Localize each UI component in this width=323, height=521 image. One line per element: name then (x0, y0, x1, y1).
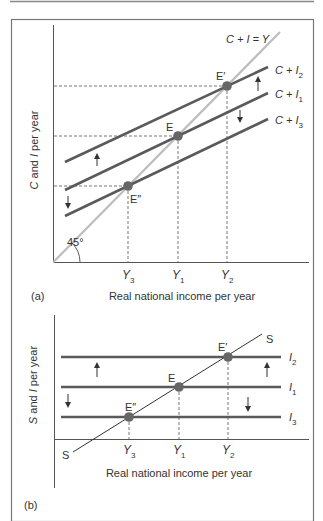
label-e: E (166, 121, 173, 133)
label-c-plus-i1: C + I1 (275, 88, 304, 104)
saving-function (73, 334, 262, 452)
label-b-e: E (168, 372, 175, 384)
label-c-plus-i2: C + I2 (275, 64, 304, 80)
panel-b: S S I2 I1 I3 E′ E E″ Y3 Y1 Y2 Real natio… (24, 315, 309, 511)
panel-a: 45° C + I = Y C + I2 C + I1 C + I3 E′ E (28, 25, 309, 302)
curve-c-plus-i3 (65, 119, 268, 216)
figure-frame (12, 20, 314, 521)
sub: 2 (299, 71, 304, 80)
sub: 3 (292, 418, 297, 427)
tick-y3: Y3 (122, 268, 135, 285)
sub: 3 (131, 451, 136, 460)
label-i3: I3 (289, 411, 297, 427)
angle-label: 45° (67, 236, 84, 248)
panel-b-y-label: S and I per year (27, 346, 39, 425)
sub: 1 (181, 451, 186, 460)
sub: 1 (299, 95, 304, 104)
label-e-double: E″ (130, 193, 141, 205)
point-e (173, 131, 183, 141)
label-i2: I2 (289, 351, 297, 367)
label-c-plus-i3: C + I3 (275, 114, 304, 130)
label-b-e-double: E″ (125, 401, 136, 413)
label-i1: I1 (289, 381, 297, 397)
forty-five-degree-line (54, 32, 281, 262)
sub: 2 (230, 451, 235, 460)
point-b-e-prime (223, 352, 233, 362)
panel-a-x-label: Real national income per year (109, 290, 255, 302)
panel-a-y-label: C and I per year (28, 110, 40, 189)
panel-a-tag: (a) (31, 290, 44, 302)
sub: 3 (299, 121, 304, 130)
tick-b-y2: Y2 (222, 443, 235, 460)
tick-b-y1: Y1 (173, 443, 186, 460)
point-e-prime (222, 81, 232, 91)
curve-c-plus-i1 (65, 93, 268, 190)
label-e-prime: E′ (216, 70, 225, 82)
tick-b-y3: Y3 (123, 443, 136, 460)
guide-label: C + I = Y (226, 33, 270, 45)
point-e-double (123, 181, 133, 191)
panel-b-x-label: Real national income per year (106, 467, 252, 479)
sub: 1 (180, 276, 185, 285)
tick-y1: Y1 (172, 268, 185, 285)
sub: 3 (130, 276, 135, 285)
point-b-e (174, 382, 184, 392)
sub: 1 (292, 388, 297, 397)
label-b-e-prime: E′ (218, 341, 227, 353)
sub: 2 (292, 358, 297, 367)
saving-label-top: S (266, 333, 273, 345)
keynesian-cross-figure: 45° C + I = Y C + I2 C + I1 C + I3 E′ E (0, 0, 323, 521)
point-b-e-double (124, 412, 134, 422)
sub: 2 (229, 276, 234, 285)
saving-label-bottom: S (62, 449, 69, 461)
tick-y2: Y2 (221, 268, 234, 285)
panel-b-tag: (b) (24, 499, 37, 511)
